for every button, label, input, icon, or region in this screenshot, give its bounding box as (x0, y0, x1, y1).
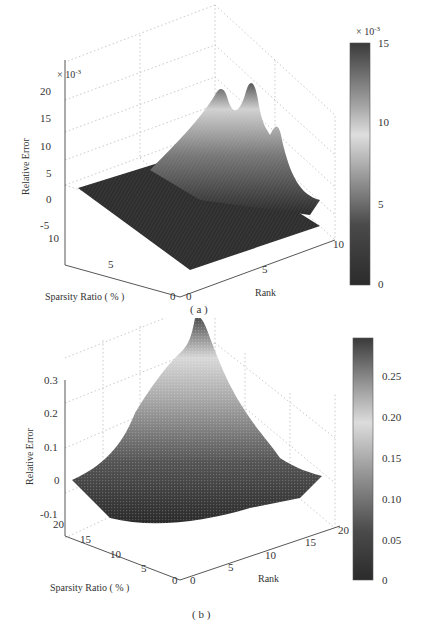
z-axis-label-b: Relative Error (24, 427, 35, 485)
svg-text:0: 0 (378, 278, 384, 290)
svg-text:10: 10 (110, 548, 122, 560)
svg-text:20: 20 (40, 85, 52, 97)
svg-text:5: 5 (228, 561, 234, 573)
svg-text:0.15: 0.15 (382, 452, 402, 464)
svg-text:5: 5 (46, 167, 52, 179)
svg-text:0.2: 0.2 (44, 407, 58, 419)
svg-text:5: 5 (141, 562, 147, 574)
z-multiplier-a: × 10-3 (57, 68, 81, 80)
svg-text:10: 10 (40, 140, 52, 152)
svg-text:0: 0 (186, 290, 192, 302)
z-ticks-a: 20 15 10 5 0 -5 (40, 85, 52, 231)
colorbar-ticks-a: 15 10 5 0 (378, 37, 390, 290)
svg-text:15: 15 (40, 112, 52, 124)
svg-text:0: 0 (190, 574, 196, 586)
figure-b: 0.3 0.2 0.1 0 -0.1 Relative Error 20 15 … (0, 318, 421, 635)
svg-text:5: 5 (108, 258, 114, 270)
svg-text:5: 5 (378, 198, 384, 210)
caption-a: ( a ) (190, 303, 208, 315)
svg-text:5: 5 (262, 263, 268, 275)
svg-text:15: 15 (305, 536, 317, 548)
svg-text:20: 20 (53, 518, 65, 530)
colorbar-a (350, 43, 370, 285)
svg-text:10: 10 (333, 238, 345, 250)
svg-text:15: 15 (80, 533, 92, 545)
figure-a: 20 15 10 5 0 -5 × 10-3 Relative Error 10… (0, 0, 421, 318)
svg-text:0: 0 (170, 290, 176, 302)
svg-text:15: 15 (378, 37, 390, 49)
sparsity-axis-label-b: Sparsity Ratio ( % ) (50, 582, 129, 594)
svg-text:10: 10 (48, 232, 60, 244)
svg-text:0: 0 (46, 193, 52, 205)
sparsity-axis-label-a: Sparsity Ratio ( % ) (45, 291, 124, 303)
svg-text:0: 0 (172, 574, 178, 586)
surface-plot-b: 0.3 0.2 0.1 0 -0.1 Relative Error 20 15 … (0, 318, 421, 635)
svg-text:10: 10 (378, 116, 390, 128)
svg-text:0.05: 0.05 (382, 534, 402, 546)
svg-text:0.20: 0.20 (382, 411, 402, 423)
z-ticks-b: 0.3 0.2 0.1 0 -0.1 (40, 374, 60, 520)
svg-text:0.1: 0.1 (44, 441, 58, 453)
sparsity-ticks-b: 20 15 10 5 0 (53, 518, 178, 586)
svg-text:0: 0 (54, 474, 60, 486)
rank-axis-b (180, 526, 340, 580)
svg-text:10: 10 (265, 549, 277, 561)
colorbar-multiplier-a: × 10-3 (356, 25, 380, 37)
svg-text:20: 20 (338, 524, 350, 536)
svg-text:0.10: 0.10 (382, 493, 402, 505)
colorbar-ticks-b: 0.25 0.20 0.15 0.10 0.05 0 (382, 370, 402, 586)
colorbar-b (353, 338, 373, 580)
svg-text:0: 0 (382, 574, 388, 586)
surface-plot-a: 20 15 10 5 0 -5 × 10-3 Relative Error 10… (0, 0, 421, 318)
svg-text:0.3: 0.3 (44, 374, 58, 386)
svg-text:0.25: 0.25 (382, 370, 402, 382)
caption-b: ( b ) (192, 608, 210, 620)
z-axis-label-a: Relative Error (20, 137, 31, 195)
rank-axis-label-b: Rank (258, 573, 279, 584)
rank-axis-label-a: Rank (255, 287, 276, 298)
svg-text:-5: -5 (40, 219, 50, 231)
